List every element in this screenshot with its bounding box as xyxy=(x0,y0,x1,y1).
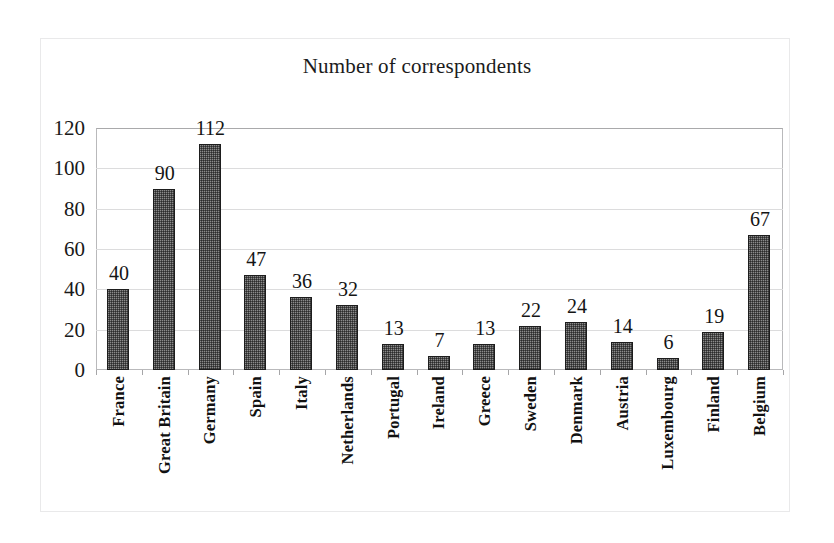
x-axis-tick xyxy=(462,370,463,375)
bar-slot: 19 xyxy=(691,128,737,370)
bar-value-label: 36 xyxy=(292,270,312,293)
y-axis-tick-label: 40 xyxy=(64,277,85,302)
bar-value-label: 13 xyxy=(475,317,495,340)
bar-slot: 90 xyxy=(142,128,188,370)
x-axis-label-slot: Luxembourg xyxy=(646,376,692,506)
y-axis-tick-label: 120 xyxy=(54,116,86,141)
bar[interactable] xyxy=(199,144,221,370)
x-axis-category-label: Germany xyxy=(200,376,220,444)
x-axis-category-label: Ireland xyxy=(429,376,449,429)
bar-value-label: 22 xyxy=(521,299,541,322)
bar-slot: 24 xyxy=(554,128,600,370)
bar[interactable] xyxy=(702,332,724,370)
bar[interactable] xyxy=(107,289,129,370)
y-axis-tick-label: 60 xyxy=(64,237,85,262)
bar-slot: 13 xyxy=(462,128,508,370)
x-axis-category-label: Portugal xyxy=(384,376,404,439)
bar[interactable] xyxy=(382,344,404,370)
x-axis-category-label: France xyxy=(109,376,129,427)
x-axis-label-slot: Spain xyxy=(233,376,279,506)
x-axis-tick xyxy=(646,370,647,375)
x-axis-tick xyxy=(691,370,692,375)
bar[interactable] xyxy=(428,356,450,370)
bar[interactable] xyxy=(473,344,495,370)
x-axis-label-slot: Belgium xyxy=(737,376,783,506)
x-axis-category-labels: FranceGreat BritainGermanySpainItalyNeth… xyxy=(96,376,783,506)
y-axis-tick-label: 0 xyxy=(75,358,86,383)
x-axis-category-label: Luxembourg xyxy=(658,376,678,470)
x-axis-category-label: Netherlands xyxy=(338,376,358,464)
x-axis-tick xyxy=(554,370,555,375)
bar[interactable] xyxy=(336,305,358,370)
bar-series: 40901124736321371322241461967 xyxy=(96,128,783,370)
x-axis-tick xyxy=(600,370,601,375)
bar[interactable] xyxy=(611,342,633,370)
bar-slot: 14 xyxy=(600,128,646,370)
y-axis-tick-label: 80 xyxy=(64,196,85,221)
x-axis-tick xyxy=(417,370,418,375)
x-axis-tick xyxy=(96,370,97,375)
x-axis-category-label: Austria xyxy=(613,376,633,431)
x-axis-category-label: Greece xyxy=(475,376,495,426)
bar[interactable] xyxy=(748,235,770,370)
x-axis-tick xyxy=(142,370,143,375)
x-axis-label-slot: Greece xyxy=(462,376,508,506)
x-axis-category-label: Finland xyxy=(704,376,724,432)
x-axis-label-slot: Italy xyxy=(279,376,325,506)
x-axis-category-label: Sweden xyxy=(521,376,541,431)
x-axis-tick xyxy=(371,370,372,375)
bar[interactable] xyxy=(244,275,266,370)
bar-slot: 36 xyxy=(279,128,325,370)
x-axis-tick xyxy=(783,370,784,375)
bar-value-label: 14 xyxy=(613,315,633,338)
x-axis-category-label: Spain xyxy=(246,376,266,417)
x-axis-label-slot: Germany xyxy=(188,376,234,506)
x-axis-label-slot: Ireland xyxy=(417,376,463,506)
x-axis-tick xyxy=(279,370,280,375)
bar[interactable] xyxy=(153,189,175,371)
x-axis-category-label: Italy xyxy=(292,376,312,410)
bar-slot: 112 xyxy=(188,128,234,370)
x-axis-tick xyxy=(737,370,738,375)
x-axis-label-slot: Denmark xyxy=(554,376,600,506)
x-axis-tick xyxy=(188,370,189,375)
bar-value-label: 13 xyxy=(384,317,404,340)
bar-slot: 47 xyxy=(233,128,279,370)
x-axis-label-slot: Austria xyxy=(600,376,646,506)
bar-value-label: 32 xyxy=(338,278,358,301)
x-axis-label-slot: France xyxy=(96,376,142,506)
bar-value-label: 90 xyxy=(155,162,175,185)
bar-slot: 32 xyxy=(325,128,371,370)
bar-value-label: 112 xyxy=(196,117,225,140)
chart-title: Number of correspondents xyxy=(0,54,834,79)
x-axis-label-slot: Finland xyxy=(691,376,737,506)
bar-value-label: 47 xyxy=(246,248,266,271)
bar-value-label: 7 xyxy=(434,329,444,352)
x-axis-label-slot: Netherlands xyxy=(325,376,371,506)
plot-area: 020406080100120 409011247363213713222414… xyxy=(96,128,783,370)
bar[interactable] xyxy=(565,322,587,370)
bar-slot: 13 xyxy=(371,128,417,370)
bar-value-label: 67 xyxy=(750,208,770,231)
bar-slot: 6 xyxy=(646,128,692,370)
bar-slot: 22 xyxy=(508,128,554,370)
y-axis-tick-label: 20 xyxy=(64,317,85,342)
bar-value-label: 6 xyxy=(663,331,673,354)
bar[interactable] xyxy=(657,358,679,370)
bar-slot: 40 xyxy=(96,128,142,370)
x-axis-category-label: Belgium xyxy=(750,376,770,436)
bar-value-label: 24 xyxy=(567,295,587,318)
bar[interactable] xyxy=(290,297,312,370)
bar-value-label: 40 xyxy=(109,262,129,285)
x-axis-category-label: Great Britain xyxy=(155,376,175,474)
x-axis-category-label: Denmark xyxy=(567,376,587,444)
bar-slot: 67 xyxy=(737,128,783,370)
x-axis-label-slot: Great Britain xyxy=(142,376,188,506)
bar-slot: 7 xyxy=(417,128,463,370)
x-axis-tick xyxy=(325,370,326,375)
y-axis-tick-label: 100 xyxy=(54,156,86,181)
x-axis-label-slot: Sweden xyxy=(508,376,554,506)
x-axis-tick xyxy=(508,370,509,375)
bar-value-label: 19 xyxy=(704,305,724,328)
bar[interactable] xyxy=(519,326,541,370)
